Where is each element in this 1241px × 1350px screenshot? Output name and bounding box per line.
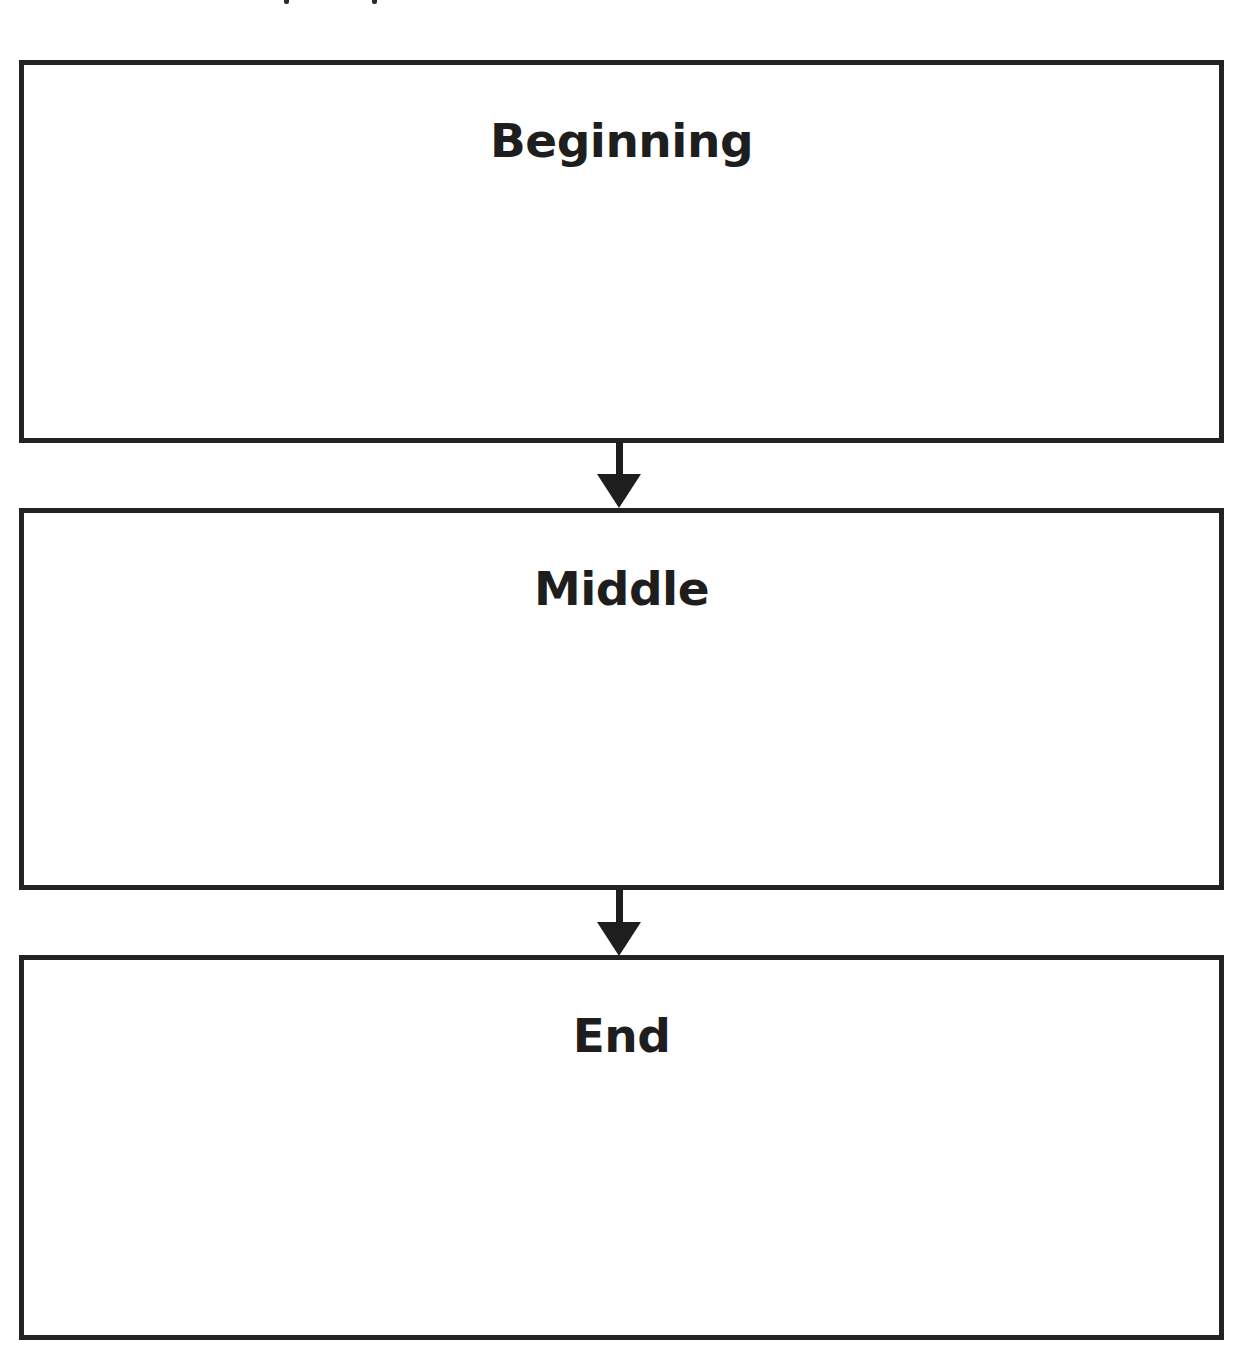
stage-content-beginning[interactable]: [44, 185, 1199, 418]
cutoff-heading-fragment: [0, 0, 1241, 6]
stage-title-beginning: Beginning: [24, 117, 1219, 164]
stage-box-middle[interactable]: Middle: [19, 508, 1224, 890]
stage-title-middle: Middle: [24, 565, 1219, 612]
stage-content-middle[interactable]: [44, 633, 1199, 865]
cutoff-text-descender: [372, 0, 377, 4]
stage-title-end: End: [24, 1012, 1219, 1059]
stage-box-end[interactable]: End: [19, 955, 1224, 1340]
arrow-down-icon: [597, 890, 641, 956]
stage-content-end[interactable]: [44, 1080, 1199, 1315]
cutoff-text-descender: [284, 0, 289, 4]
arrow-down-icon: [597, 442, 641, 508]
stage-box-beginning[interactable]: Beginning: [19, 60, 1224, 443]
